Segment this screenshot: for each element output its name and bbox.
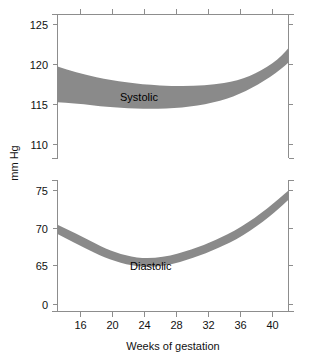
diastolic-series-label: Diastolic [130,260,172,272]
xlabel-16: 16 [74,319,86,331]
xlabel-40: 40 [266,319,278,331]
x-axis-tick-labels: 16 20 24 28 32 36 40 [74,319,278,331]
xlabel-36: 36 [234,319,246,331]
systolic-ylabel-115: 115 [30,99,48,111]
systolic-band [58,48,289,109]
diastolic-ylabel-75: 75 [36,185,48,197]
systolic-series-label: Systolic [120,91,158,103]
systolic-ylabel-110: 110 [30,139,48,151]
xlabel-32: 32 [202,319,214,331]
diastolic-panel: 75 70 65 0 Diastolic [36,180,294,317]
chart-svg: 125 120 115 110 Systolic [0,0,312,358]
diastolic-ylabel-65: 65 [36,260,48,272]
diastolic-ylabel-0: 0 [42,299,48,311]
diastolic-band [58,191,289,267]
systolic-ylabel-120: 120 [30,59,48,71]
blood-pressure-chart: 125 120 115 110 Systolic [0,0,312,358]
x-axis-title: Weeks of gestation [126,340,219,352]
systolic-ylabel-125: 125 [30,19,48,31]
diastolic-ylabel-70: 70 [36,223,48,235]
systolic-panel: 125 120 115 110 Systolic [30,9,294,159]
xlabel-28: 28 [170,319,182,331]
y-axis-title: mm Hg [8,145,20,180]
xlabel-20: 20 [106,319,118,331]
xlabel-24: 24 [138,319,150,331]
